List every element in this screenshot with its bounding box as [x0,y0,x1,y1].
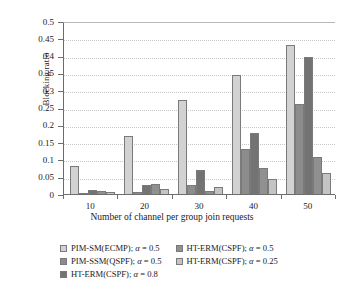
legend-swatch-icon [176,245,183,252]
bar-group [173,23,227,194]
bar[interactable] [160,189,169,194]
y-tick-label: 0.35 [38,69,54,78]
legend-swatch-icon [60,245,67,252]
plot-area [63,22,335,195]
chart-legend: PIM-SM(ECMP); α = 0.5PIM-SSM(QSPF); α = … [60,243,344,280]
legend-item[interactable]: HT-ERM(CSPF); α = 0.8 [60,269,162,280]
bar[interactable] [133,192,142,194]
y-tick-label: 0.1 [43,156,54,165]
bar[interactable] [250,133,259,194]
bar[interactable] [196,170,205,194]
bar-group [227,23,281,194]
legend-label: HT-ERM(CSPF); α = 0.25 [187,256,278,267]
legend-item[interactable]: PIM-SM(ECMP); α = 0.5 [60,243,162,254]
bar[interactable] [241,149,250,194]
bar[interactable] [322,173,331,194]
bar[interactable] [205,191,214,194]
bar[interactable] [88,190,97,194]
legend-label: PIM-SM(ECMP); α = 0.5 [71,243,160,254]
bar-group [119,23,173,194]
bar-group-bars [70,23,115,194]
bar[interactable] [70,166,79,194]
x-axis-ticks: 1020304050 [63,196,335,211]
x-axis-title: Number of channel per group join request… [0,212,344,222]
bar[interactable] [178,100,187,194]
legend-label: HT-ERM(CSPF); α = 0.5 [187,243,274,254]
bar-group [281,23,335,194]
legend-label: PIM-SSM(QSPF); α = 0.5 [71,256,162,267]
y-tick-label: 0.45 [38,35,54,44]
y-tick-label: 0.25 [38,104,54,113]
y-axis-ticks: 00.050.10.150.20.250.30.350.40.450.5 [0,0,63,196]
x-tick-mark [335,195,336,199]
bar[interactable] [313,157,322,194]
bar-group-bars [178,23,223,194]
bar[interactable] [259,168,268,194]
legend-item[interactable]: HT-ERM(CSPF); α = 0.5 [176,243,278,254]
bar-groups [65,23,335,194]
legend-column: PIM-SM(ECMP); α = 0.5PIM-SSM(QSPF); α = … [60,243,162,280]
legend-item[interactable]: HT-ERM(CSPF); α = 0.25 [176,256,278,267]
bar[interactable] [142,185,151,194]
x-tick-label: 30 [172,196,226,211]
x-tick-label: 20 [117,196,171,211]
bar[interactable] [151,184,160,194]
bar[interactable] [187,185,196,194]
bar[interactable] [295,104,304,194]
y-tick-label: 0.2 [43,121,54,130]
legend-label: HT-ERM(CSPF); α = 0.8 [71,269,158,280]
bar[interactable] [124,136,133,194]
bar[interactable] [97,191,106,194]
bar[interactable] [106,192,115,194]
bar[interactable] [232,75,241,194]
bar-group-bars [232,23,277,194]
legend-column: HT-ERM(CSPF); α = 0.5HT-ERM(CSPF); α = 0… [176,243,278,280]
bar-group [65,23,119,194]
bar[interactable] [304,57,313,194]
bar-group-bars [286,23,331,194]
bar[interactable] [286,45,295,194]
legend-swatch-icon [60,271,67,278]
y-tick-label: 0 [50,191,55,200]
chart-figure: Blocking ratio 00.050.10.150.20.250.30.3… [0,0,344,293]
y-tick-label: 0.3 [43,87,54,96]
y-tick-label: 0.4 [43,52,54,61]
x-tick-label: 40 [226,196,280,211]
bar[interactable] [214,187,223,194]
legend-item[interactable]: PIM-SSM(QSPF); α = 0.5 [60,256,162,267]
bar[interactable] [79,193,88,194]
y-tick-label: 0.5 [43,18,54,27]
bar-group-bars [124,23,169,194]
legend-swatch-icon [176,258,183,265]
x-tick-label: 10 [63,196,117,211]
legend-swatch-icon [60,258,67,265]
bar[interactable] [268,179,277,194]
y-tick-label: 0.15 [38,139,54,148]
y-tick-label: 0.05 [38,173,54,182]
x-tick-label: 50 [281,196,335,211]
